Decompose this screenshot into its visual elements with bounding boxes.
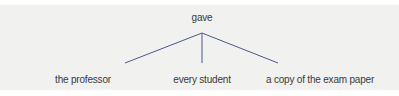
child-node-label-2: every student <box>173 74 230 85</box>
edge-root-to-professor <box>125 33 202 63</box>
child-node-label-3: a copy of the exam paper <box>266 74 374 85</box>
root-node-label: gave <box>192 12 213 23</box>
child-node-label-1: the professor <box>55 74 111 85</box>
edge-root-to-paper <box>202 33 278 63</box>
